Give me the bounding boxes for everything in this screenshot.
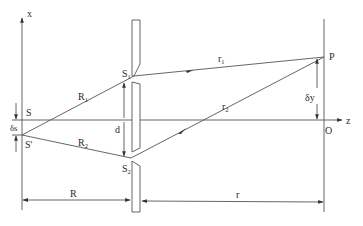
slit-separation-label: d (115, 124, 120, 135)
path-r2-label: r2 (222, 101, 229, 113)
path-R1-label: R1 (78, 91, 88, 103)
origin-label: O (325, 125, 332, 136)
source-shift-label: δs (10, 123, 17, 133)
source-shift-marker: δs (10, 103, 17, 152)
screen-distance-label: r (236, 189, 240, 200)
x-axis-label: x (27, 8, 32, 19)
source-distance-label: R (70, 188, 77, 199)
z-axis-label: z (346, 115, 351, 126)
screen-offset-label: δy (305, 92, 315, 103)
slit-separation-marker: d (115, 83, 124, 156)
source-distance-marker: R (23, 188, 130, 200)
point-P-label: P (329, 51, 335, 62)
screen-offset-marker: δy (305, 59, 317, 119)
slit2-label: S2 (122, 163, 131, 175)
slit-plate (132, 20, 140, 212)
screen-distance-marker: r (142, 189, 323, 202)
path-R2-label: R2 (78, 137, 88, 149)
rays (22, 57, 324, 158)
source-shifted-label: S' (25, 139, 33, 150)
source-label: S (26, 107, 32, 118)
z-axis: z (12, 115, 351, 126)
path-r1-label: r1 (218, 53, 225, 65)
slit1-label: S1 (122, 68, 131, 80)
double-slit-diagram: x z δs S S' R1 R2 r1 r2 S1 S2 (0, 0, 363, 226)
